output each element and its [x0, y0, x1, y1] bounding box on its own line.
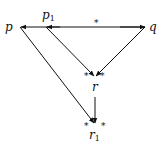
node-r1-label: r1 [89, 128, 100, 143]
node-p1-sub: 1 [50, 14, 55, 23]
node-r1-sub: 1 [95, 134, 100, 143]
node-r-label: r [92, 80, 99, 94]
star-r-right: * [100, 71, 105, 81]
star-r-left: * [84, 71, 89, 81]
node-p-label: p [5, 20, 13, 34]
star-r1-left: * [84, 121, 89, 131]
node-q-label: q [149, 20, 157, 34]
commutative-diagram: p p1 q r r1 * * * * * [0, 0, 162, 148]
star-r1-right: * [101, 121, 106, 131]
edge-q-r [96, 27, 145, 76]
node-p1-label: p1 [42, 8, 55, 23]
edge-p1-r [46, 27, 94, 76]
edge-p-r1 [20, 27, 94, 123]
star-top-edge: * [94, 18, 99, 28]
